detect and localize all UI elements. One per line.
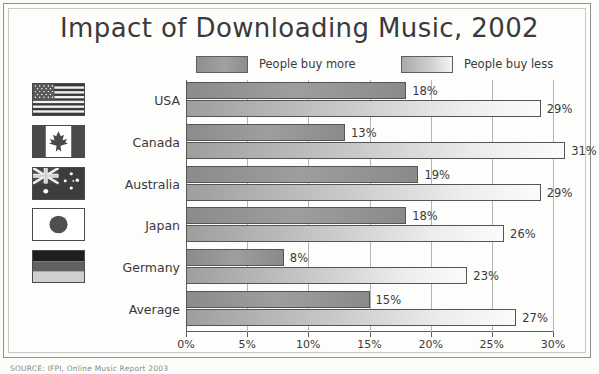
bar-buy-more[interactable] — [186, 249, 284, 266]
bar-group-germany: 8%23% — [186, 249, 553, 284]
category-label-usa: USA — [72, 93, 180, 108]
category-label-australia: Australia — [72, 177, 180, 192]
bar-buy-more[interactable] — [186, 82, 406, 99]
bar-group-average: 15%27% — [186, 291, 553, 326]
bar-buy-more[interactable] — [186, 124, 345, 141]
bar-value-buy-more: 13% — [351, 126, 377, 140]
x-axis-tick-label: 15% — [357, 338, 381, 351]
legend-label: People buy more — [259, 57, 356, 71]
bar-group-canada: 13%31% — [186, 124, 553, 159]
bar-buy-more[interactable] — [186, 207, 406, 224]
bar-value-buy-less: 27% — [522, 311, 548, 325]
x-axis-tick-label: 20% — [418, 338, 442, 351]
bar-value-buy-less: 29% — [547, 186, 573, 200]
x-axis-tick-label: 5% — [238, 338, 255, 351]
bar-group-usa: 18%29% — [186, 82, 553, 117]
bar-value-buy-more: 15% — [376, 293, 402, 307]
legend-swatch-more — [196, 56, 248, 73]
bar-value-buy-less: 31% — [571, 144, 597, 158]
bar-group-japan: 18%26% — [186, 207, 553, 242]
x-axis-tick — [370, 332, 371, 337]
bar-value-buy-more: 19% — [424, 168, 450, 182]
legend-entry-buy-less[interactable]: People buy less — [401, 54, 553, 74]
x-axis-tick-label: 0% — [177, 338, 194, 351]
category-label-germany: Germany — [72, 260, 180, 275]
bar-buy-more[interactable] — [186, 166, 418, 183]
bar-buy-less[interactable] — [186, 184, 541, 201]
bar-value-buy-less: 23% — [473, 269, 499, 283]
legend-entry-buy-more[interactable]: People buy more — [196, 54, 356, 74]
bar-buy-less[interactable] — [186, 142, 565, 159]
bar-value-buy-more: 18% — [412, 209, 438, 223]
category-label-canada: Canada — [72, 135, 180, 150]
x-axis-tick — [247, 332, 248, 337]
chart-legend: People buy morePeople buy less — [196, 54, 586, 74]
plot-area: 0%5%10%15%20%25%30%18%29%13%31%19%29%18%… — [186, 80, 553, 332]
x-axis-tick — [492, 332, 493, 337]
bar-value-buy-less: 26% — [510, 227, 536, 241]
x-axis-tick-label: 25% — [480, 338, 504, 351]
bar-buy-less[interactable] — [186, 309, 516, 326]
bar-value-buy-more: 18% — [412, 84, 438, 98]
bar-buy-more[interactable] — [186, 291, 370, 308]
x-axis-tick-label: 10% — [296, 338, 320, 351]
chart-title: Impact of Downloading Music, 2002 — [0, 13, 599, 43]
source-note: SOURCE: IFPI, Online Music Report 2003 — [10, 364, 168, 373]
x-axis-tick — [553, 332, 554, 337]
bar-buy-less[interactable] — [186, 267, 467, 284]
category-label-japan: Japan — [72, 218, 180, 233]
x-axis-tick — [431, 332, 432, 337]
x-axis-tick — [308, 332, 309, 337]
bar-buy-less[interactable] — [186, 100, 541, 117]
gridline — [553, 80, 554, 332]
chart-container: Impact of Downloading Music, 2002 People… — [0, 0, 599, 374]
x-axis-tick-label: 30% — [541, 338, 565, 351]
legend-label: People buy less — [464, 57, 553, 71]
bar-value-buy-less: 29% — [547, 102, 573, 116]
x-axis-tick — [186, 332, 187, 337]
legend-swatch-less — [401, 56, 453, 73]
category-label-average: Average — [72, 302, 180, 317]
bar-value-buy-more: 8% — [290, 251, 308, 265]
bar-group-australia: 19%29% — [186, 166, 553, 201]
category-label-column: USACanadaAustraliaJapanGermanyAverage — [68, 80, 180, 332]
bar-buy-less[interactable] — [186, 225, 504, 242]
